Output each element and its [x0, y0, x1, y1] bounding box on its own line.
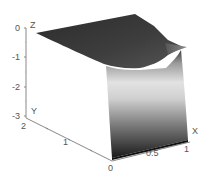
y-tick-2: 2	[21, 121, 26, 131]
z-tick-0: 0	[15, 23, 20, 33]
surface-plateau	[36, 14, 183, 68]
x-axis-label: X	[192, 126, 198, 136]
y-tick-0: 0	[108, 163, 113, 173]
y-axis-label: Y	[31, 106, 37, 116]
z-axis-label: Z	[30, 20, 36, 30]
z-tick-neg1: -1	[12, 52, 20, 62]
z-tick-neg2: -2	[12, 82, 20, 92]
y-tick-1: 1	[63, 137, 68, 147]
y-axis: 2 1 0 Y	[21, 106, 113, 173]
surface-plot: 0 -1 -2 -3 Z 2 1 0 Y 0.5 1 X	[0, 0, 210, 176]
z-tick-neg3: -3	[12, 111, 20, 121]
x-tick-1: 1	[184, 144, 189, 154]
